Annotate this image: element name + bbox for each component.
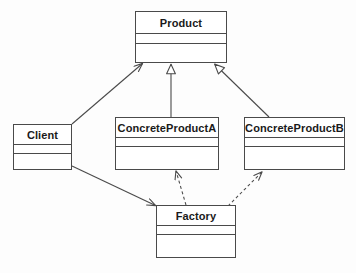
uml-class-client[interactable]: Client [13, 124, 72, 170]
uml-class-name-factory: Factory [157, 206, 235, 226]
uml-operations-concrete-product-a [116, 147, 218, 169]
uml-operations-client [14, 154, 71, 169]
uml-class-diagram: Product Client ConcreteProductA Concrete… [0, 0, 356, 273]
uml-class-name-product: Product [136, 12, 226, 34]
uml-attributes-client [14, 145, 71, 154]
relationship-factory-creates-concrete-product-a [176, 171, 186, 205]
uml-attributes-factory [157, 226, 235, 235]
uml-class-concrete-product-b[interactable]: ConcreteProductB [244, 117, 345, 170]
uml-operations-factory [157, 235, 235, 257]
uml-attributes-product [136, 34, 226, 44]
uml-class-concrete-product-a[interactable]: ConcreteProductA [115, 117, 219, 170]
uml-class-factory[interactable]: Factory [156, 205, 236, 258]
uml-class-product[interactable]: Product [135, 11, 227, 63]
uml-class-name-client: Client [14, 125, 71, 145]
relationship-client-uses-product [72, 64, 143, 125]
relationship-concrete-product-b-extends-product [215, 64, 270, 117]
relationship-client-uses-factory [72, 166, 156, 206]
uml-attributes-concrete-product-a [116, 138, 218, 147]
uml-operations-product [136, 44, 226, 62]
uml-class-name-concrete-product-b: ConcreteProductB [245, 118, 344, 138]
uml-class-name-concrete-product-a: ConcreteProductA [116, 118, 218, 138]
uml-attributes-concrete-product-b [245, 138, 344, 147]
relationship-factory-creates-concrete-product-b [228, 172, 262, 206]
uml-operations-concrete-product-b [245, 147, 344, 169]
